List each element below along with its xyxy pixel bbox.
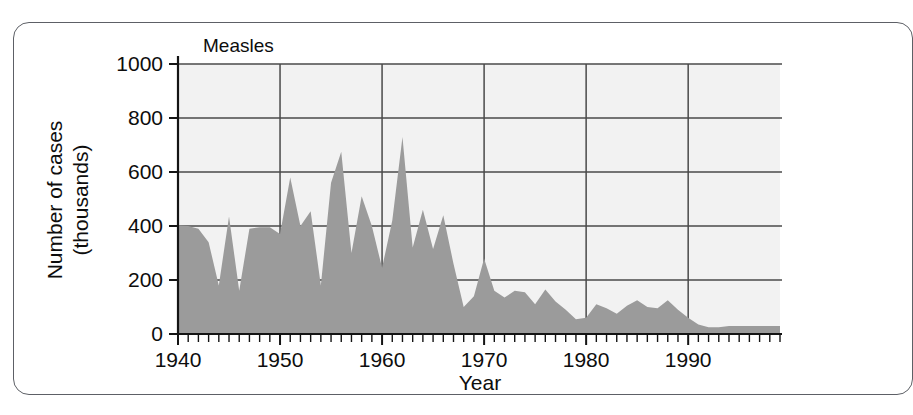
x-tick-label-1990: 1990 — [665, 348, 712, 371]
y-axis-title-line-1: Number of cases — [43, 121, 66, 280]
y-tick-label-600: 600 — [128, 160, 163, 183]
y-tick-label-800: 800 — [128, 106, 163, 129]
y-tick-label-1000: 1000 — [116, 52, 163, 75]
x-tick-label-1960: 1960 — [359, 348, 406, 371]
y-tick-label-400: 400 — [128, 214, 163, 237]
series-title: Measles — [203, 35, 274, 56]
y-axis-title-group: Number of cases (thousands) — [43, 121, 92, 280]
x-tick-label-1950: 1950 — [257, 348, 304, 371]
x-axis-title: Year — [459, 371, 501, 394]
y-tick-label-200: 200 — [128, 268, 163, 291]
y-axis-ticks: 02004006008001000 — [116, 52, 178, 345]
x-tick-label-1940: 1940 — [155, 348, 202, 371]
y-axis-title-line-2: (thousands) — [69, 145, 92, 256]
x-tick-label-1980: 1980 — [563, 348, 610, 371]
y-tick-label-0: 0 — [151, 322, 163, 345]
x-tick-label-1970: 1970 — [461, 348, 508, 371]
